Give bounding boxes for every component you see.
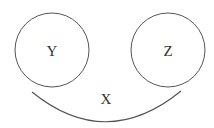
diagram-canvas: Y Z X bbox=[0, 0, 214, 128]
edge-x-label: X bbox=[101, 91, 112, 107]
node-y-label: Y bbox=[47, 43, 58, 59]
node-z: Z bbox=[131, 13, 205, 87]
node-y: Y bbox=[15, 13, 89, 87]
edge-x: X bbox=[32, 91, 181, 122]
node-z-label: Z bbox=[163, 43, 172, 59]
diagram-svg: Y Z X bbox=[0, 0, 214, 128]
